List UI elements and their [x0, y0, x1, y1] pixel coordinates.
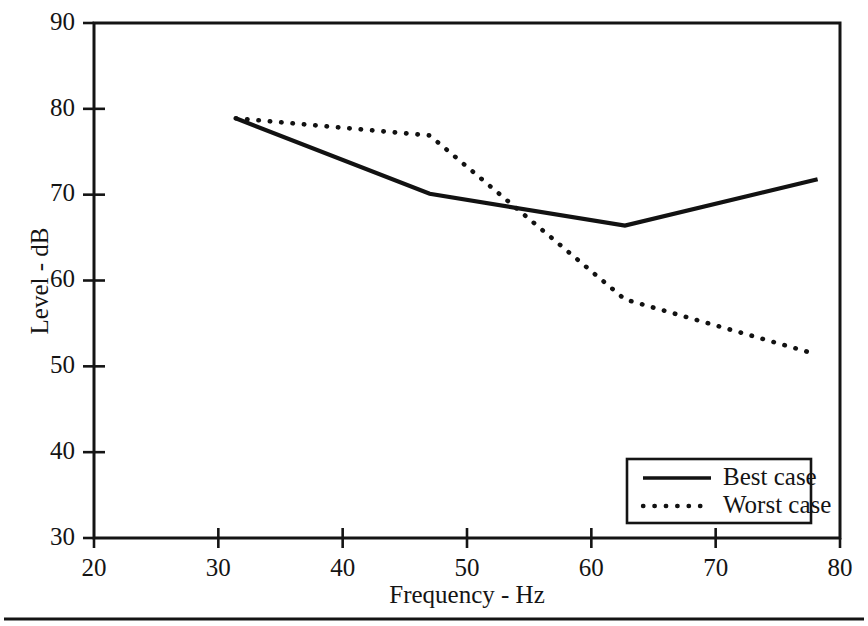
x-tick-label-50: 50 — [455, 554, 480, 581]
data-series-group — [236, 118, 818, 354]
y-tick-label-30: 30 — [50, 523, 75, 550]
x-tick-label-60: 60 — [579, 554, 604, 581]
x-axis-title: Frequency - Hz — [389, 581, 545, 608]
x-tick-label-80: 80 — [828, 554, 853, 581]
legend-label-best-case: Best case — [723, 463, 817, 490]
y-tick-label-60: 60 — [50, 265, 75, 292]
series-line-best-case — [236, 118, 818, 225]
x-axis-tick-labels: 20304050607080 — [82, 554, 853, 581]
y-tick-label-50: 50 — [50, 351, 75, 378]
y-axis-title: Level - dB — [26, 228, 53, 335]
x-tick-label-30: 30 — [206, 554, 231, 581]
y-tick-label-90: 90 — [50, 8, 75, 35]
x-tick-label-70: 70 — [703, 554, 728, 581]
legend-label-worst-case: Worst case — [723, 491, 831, 518]
y-axis-tick-labels: 30405060708090 — [50, 8, 75, 550]
y-tick-label-70: 70 — [50, 179, 75, 206]
chart-legend: Best caseWorst case — [627, 459, 831, 523]
line-chart: 30405060708090 20304050607080 Level - dB… — [0, 0, 868, 626]
y-tick-label-40: 40 — [50, 437, 75, 464]
x-tick-label-20: 20 — [82, 554, 107, 581]
x-tick-label-40: 40 — [330, 554, 355, 581]
y-tick-label-80: 80 — [50, 94, 75, 121]
figure-container: 30405060708090 20304050607080 Level - dB… — [0, 0, 868, 626]
